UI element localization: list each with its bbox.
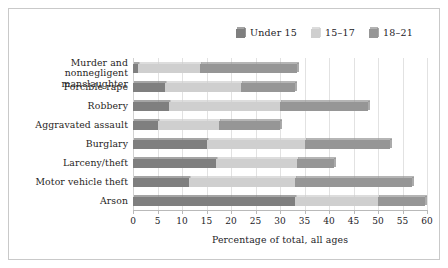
bar-segment[interactable] (378, 197, 425, 206)
x-tick (207, 210, 208, 214)
category-label: Larceny/theft (10, 158, 128, 169)
bar-segment[interactable] (133, 140, 207, 149)
legend-item-3[interactable]: 18–21 (369, 27, 413, 38)
x-tick-label: 45 (348, 216, 359, 226)
category-label-line: Forcible rape (10, 82, 128, 93)
gridline-60 (427, 58, 428, 210)
bar-segment[interactable] (133, 121, 158, 130)
legend-item-2[interactable]: 15–17 (311, 27, 355, 38)
cube-icon (311, 27, 320, 38)
bar-row (133, 178, 427, 189)
x-tick (280, 210, 281, 214)
legend-item-1[interactable]: Under 15 (236, 27, 297, 38)
category-label-line: Motor vehicle theft (10, 177, 128, 188)
legend-label: Under 15 (250, 27, 297, 38)
bar-row (133, 64, 427, 75)
x-axis-title: Percentage of total, all ages (133, 234, 427, 245)
bar-segment[interactable] (133, 102, 169, 111)
bar-segment[interactable] (280, 102, 368, 111)
bar-segment[interactable] (216, 159, 297, 168)
category-label: Aggravated assault (10, 120, 128, 131)
bar-row (133, 121, 427, 132)
bar-row (133, 159, 427, 170)
x-tick-label: 15 (201, 216, 212, 226)
category-label: Burglary (10, 139, 128, 150)
bar-segment[interactable] (133, 159, 216, 168)
x-tick-label: 25 (250, 216, 261, 226)
x-tick-label: 50 (372, 216, 383, 226)
x-tick-label: 60 (421, 216, 432, 226)
x-tick (158, 210, 159, 214)
category-label-line: Aggravated assault (10, 120, 128, 131)
category-label: Robbery (10, 101, 128, 112)
category-label-line: Robbery (10, 101, 128, 112)
bar-segment[interactable] (241, 83, 295, 92)
bar-row (133, 83, 427, 94)
bar-segment[interactable] (133, 83, 165, 92)
category-label: Motor vehicle theft (10, 177, 128, 188)
plot-area (133, 58, 427, 210)
x-tick-label: 55 (397, 216, 408, 226)
x-tick (354, 210, 355, 214)
bar-row (133, 102, 427, 113)
bar-segment[interactable] (165, 83, 241, 92)
x-tick-label: 5 (155, 216, 161, 226)
x-tick-label: 40 (323, 216, 334, 226)
bar-segment[interactable] (207, 140, 305, 149)
x-tick (133, 210, 134, 214)
bar-segment[interactable] (295, 197, 378, 206)
x-tick (378, 210, 379, 214)
bar-segment[interactable] (305, 140, 391, 149)
bar-segment[interactable] (158, 121, 219, 130)
cube-icon (236, 27, 245, 38)
x-tick (305, 210, 306, 214)
bar-segment[interactable] (189, 178, 294, 187)
x-tick-label: 30 (274, 216, 285, 226)
x-tick (182, 210, 183, 214)
bar-segment[interactable] (219, 121, 280, 130)
chart-legend: Under 1515–1718–21 (236, 24, 413, 40)
bar-segment[interactable] (295, 178, 413, 187)
category-axis-labels: Murder and nonnegligentmanslaughterForci… (10, 58, 128, 210)
legend-label: 15–17 (325, 27, 355, 38)
x-tick-label: 10 (176, 216, 187, 226)
bar-row (133, 197, 427, 208)
category-label-line: Burglary (10, 139, 128, 150)
bar-segment[interactable] (133, 178, 189, 187)
bar-row (133, 140, 427, 151)
category-label-line: Murder and nonnegligent (10, 58, 128, 79)
bar-segment[interactable] (133, 197, 295, 206)
category-label-line: Arson (10, 196, 128, 207)
legend-label: 18–21 (383, 27, 413, 38)
x-tick-label: 35 (299, 216, 310, 226)
bar-segment[interactable] (200, 64, 297, 73)
x-tick (256, 210, 257, 214)
x-tick (231, 210, 232, 214)
x-tick (427, 210, 428, 214)
stacked-bar-chart: Under 1515–1718–21 Murder and nonneglige… (0, 0, 448, 268)
x-axis: 051015202530354045505560 (133, 210, 427, 228)
x-tick-label: 0 (130, 216, 136, 226)
bar-segment[interactable] (169, 102, 280, 111)
x-tick (403, 210, 404, 214)
category-label-line: Larceny/theft (10, 158, 128, 169)
x-tick-label: 20 (225, 216, 236, 226)
bar-segment[interactable] (297, 159, 334, 168)
bar-segment[interactable] (138, 64, 200, 73)
category-label: Forcible rape (10, 82, 128, 93)
x-tick (329, 210, 330, 214)
category-label: Arson (10, 196, 128, 207)
cube-icon (369, 27, 378, 38)
